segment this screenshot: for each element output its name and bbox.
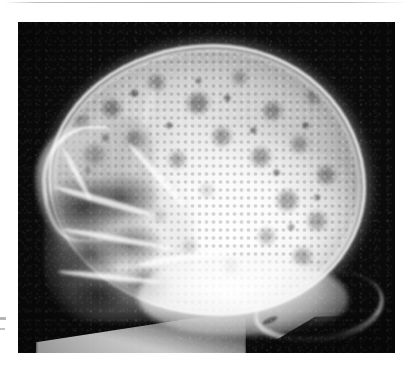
left-margin-mark-2 bbox=[0, 328, 5, 330]
left-margin-mark-1 bbox=[0, 317, 6, 320]
top-divider-rule bbox=[4, 2, 408, 3]
page-canvas bbox=[0, 0, 412, 371]
figure-caption bbox=[0, 356, 412, 371]
skull-radiograph-image bbox=[18, 22, 395, 353]
